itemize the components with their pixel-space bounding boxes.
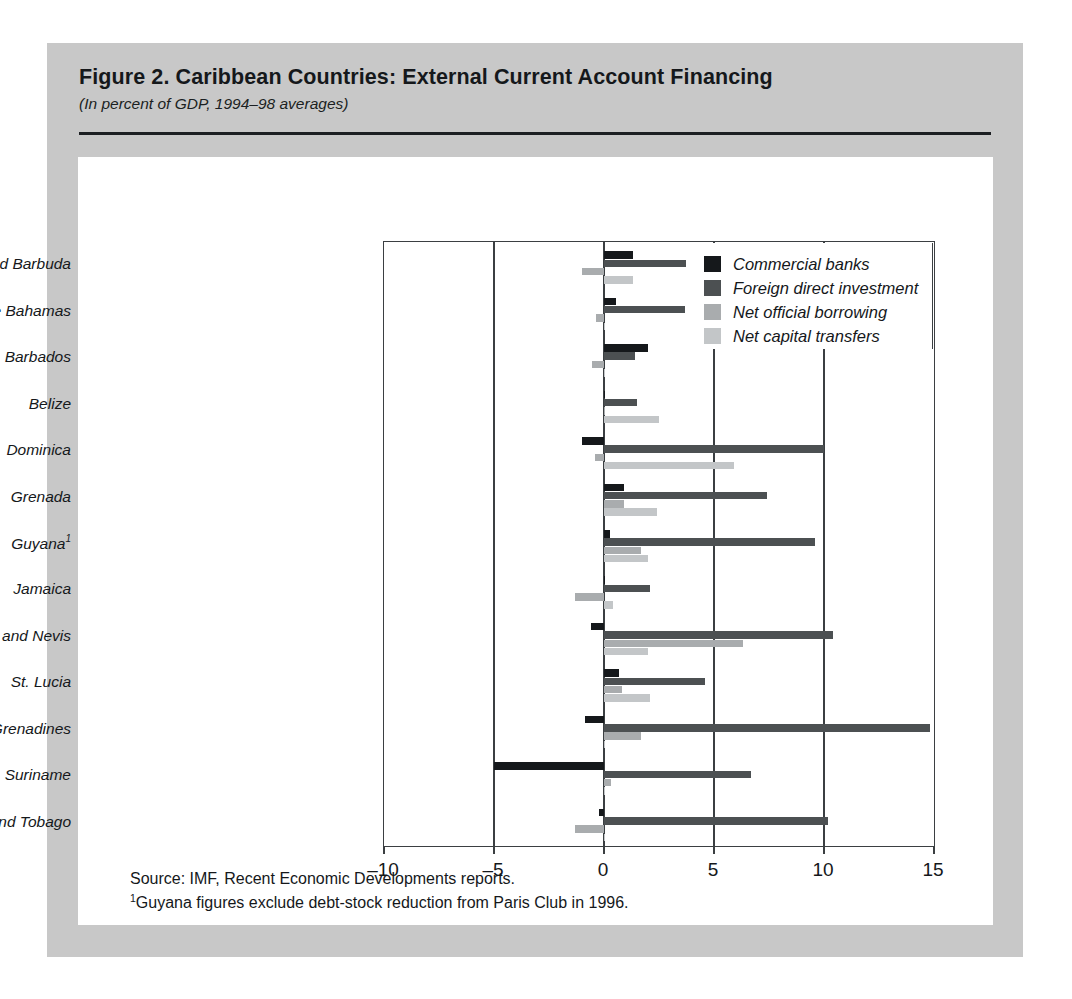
- axis-tick--5: [493, 846, 494, 854]
- bar: [604, 445, 824, 453]
- bar: [604, 547, 641, 555]
- bar: [604, 585, 650, 593]
- category-label: The Bahamas: [0, 302, 71, 320]
- figure-panel: Figure 2. Caribbean Countries: External …: [47, 43, 1023, 957]
- bar: [604, 492, 767, 500]
- tick-label-5: 5: [708, 859, 719, 881]
- legend-label: Commercial banks: [733, 255, 870, 274]
- bar: [604, 538, 815, 546]
- bar: [604, 601, 613, 609]
- category-label: Dominica: [6, 441, 71, 459]
- legend-swatch-icon: [704, 256, 721, 272]
- bar: [604, 508, 657, 516]
- bar: [604, 369, 605, 377]
- figure-subtitle: (In percent of GDP, 1994–98 averages): [79, 95, 348, 113]
- bar: [604, 834, 605, 842]
- category-label: Jamaica: [13, 580, 71, 598]
- category-label: Grenada: [11, 488, 71, 506]
- bar: [604, 344, 648, 352]
- bar: [604, 669, 619, 677]
- bar: [604, 323, 605, 331]
- bar: [604, 741, 605, 749]
- footnote-line: 1Guyana figures exclude debt-stock reduc…: [130, 892, 629, 912]
- legend-swatch-icon: [704, 280, 721, 296]
- bar: [604, 576, 605, 584]
- figure-notes: Source: IMF, Recent Economic Development…: [130, 870, 629, 916]
- category-label: Belize: [29, 395, 71, 413]
- legend-label: Net capital transfers: [733, 327, 880, 346]
- legend-item: Foreign direct investment: [704, 277, 918, 299]
- legend-swatch-icon: [704, 328, 721, 344]
- legend-label: Foreign direct investment: [733, 279, 918, 298]
- source-note: Source: IMF, Recent Economic Development…: [130, 870, 629, 888]
- bar: [582, 437, 604, 445]
- bar: [604, 694, 650, 702]
- bar: [604, 732, 641, 740]
- legend-item: Net official borrowing: [704, 301, 887, 323]
- bar: [604, 631, 833, 639]
- gridline--5: [493, 242, 494, 846]
- legend-swatch-icon: [704, 304, 721, 320]
- axis-tick--10: [383, 846, 384, 854]
- bar: [604, 555, 648, 563]
- bar: [596, 314, 604, 322]
- axis-tick-10: [823, 846, 824, 854]
- category-footnote-marker: 1: [65, 533, 71, 544]
- bar: [604, 500, 624, 508]
- bar: [604, 298, 616, 306]
- bar: [494, 762, 604, 770]
- plot-card: Antigua and BarbudaThe BahamasBarbadosBe…: [78, 157, 993, 925]
- bar: [585, 716, 604, 724]
- bar: [604, 817, 828, 825]
- bar: [604, 391, 605, 399]
- figure-header: Figure 2. Caribbean Countries: External …: [47, 43, 1023, 143]
- category-label: St. Lucia: [11, 673, 71, 691]
- bar: [604, 779, 611, 787]
- bar: [604, 276, 633, 284]
- bar: [575, 825, 604, 833]
- bar: [604, 484, 624, 492]
- bar: [604, 640, 743, 648]
- bar: [591, 623, 604, 631]
- axis-tick-0: [603, 846, 604, 854]
- bar: [604, 530, 610, 538]
- bar: [592, 361, 604, 369]
- legend-item: Net capital transfers: [704, 325, 880, 347]
- bar: [604, 352, 635, 360]
- footnote-text: Guyana figures exclude debt-stock reduct…: [136, 894, 629, 911]
- bar: [604, 771, 751, 779]
- bar: [604, 306, 685, 314]
- figure-title: Figure 2. Caribbean Countries: External …: [79, 65, 773, 90]
- category-label: St. Vincent and the Grenadines: [0, 720, 71, 738]
- legend-label: Net official borrowing: [733, 303, 887, 322]
- legend-item: Commercial banks: [704, 253, 870, 275]
- bar: [604, 407, 605, 415]
- title-divider: [79, 132, 991, 135]
- axis-tick-15: [933, 846, 934, 854]
- tick-label-15: 15: [922, 859, 943, 881]
- axis-tick-5: [713, 846, 714, 854]
- category-label: Trinidad and Tobago: [0, 813, 71, 831]
- chart-legend: Commercial banksForeign direct investmen…: [686, 243, 933, 349]
- bar: [604, 724, 930, 732]
- tick-label-10: 10: [812, 859, 833, 881]
- bar: [582, 268, 604, 276]
- bar: [599, 809, 605, 817]
- bar: [604, 462, 734, 470]
- bar: [604, 648, 648, 656]
- bar: [595, 454, 604, 462]
- category-label: St. Kitts and Nevis: [0, 627, 71, 645]
- category-label: Antigua and Barbuda: [0, 255, 71, 273]
- bar: [604, 416, 659, 424]
- bar: [604, 787, 605, 795]
- category-label: Suriname: [5, 766, 71, 784]
- bar: [604, 686, 622, 694]
- bar: [604, 251, 633, 259]
- figure-page: Figure 2. Caribbean Countries: External …: [0, 0, 1072, 999]
- bar: [604, 399, 637, 407]
- category-label: Guyana1: [11, 533, 71, 552]
- bar: [575, 593, 604, 601]
- bar: [604, 678, 705, 686]
- category-label: Barbados: [5, 348, 71, 366]
